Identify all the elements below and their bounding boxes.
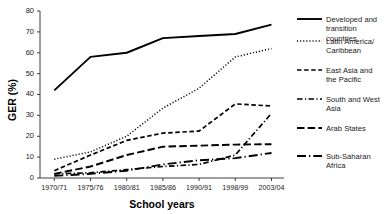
- legend-item-label: South and West: [326, 95, 381, 104]
- legend-item-label: the Pacific: [326, 75, 361, 84]
- chart-figure: GER (%) 80 70 60 50 40 30 20 10 0: [0, 0, 386, 214]
- x-tick-label: 1980/81: [114, 183, 140, 192]
- x-tick-label: 1985/86: [150, 183, 176, 192]
- y-tick-label: 30: [26, 110, 34, 119]
- legend-item-label: Arab States: [326, 124, 366, 133]
- x-axis-title: School years: [129, 198, 195, 210]
- x-tick-label: 1975/76: [78, 183, 104, 192]
- line-chart: GER (%) 80 70 60 50 40 30 20 10 0: [0, 0, 386, 214]
- legend-item-label: Sub-Saharan: [326, 152, 371, 161]
- legend-item-label: Developed and: [326, 15, 377, 24]
- x-tick-label: 1970/71: [41, 183, 67, 192]
- y-axis-tick-labels: 80 70 60 50 40 30 20 10 0: [26, 6, 34, 182]
- x-tick-label: 1990/91: [186, 183, 212, 192]
- y-tick-label: 50: [26, 69, 34, 78]
- y-tick-label: 80: [26, 6, 34, 15]
- legend-item-label: Africa: [326, 161, 346, 170]
- y-tick-label: 0: [30, 173, 34, 182]
- legend-item-label: Asia: [326, 104, 342, 113]
- y-tick-label: 20: [26, 131, 34, 140]
- y-tick-label: 40: [26, 89, 34, 98]
- y-axis-title: GER (%): [6, 79, 18, 121]
- legend-item-label: transition: [326, 24, 357, 33]
- legend-item-label: East Asia and: [326, 66, 372, 75]
- legend-item-label: Latin America/: [326, 37, 375, 46]
- x-tick-label: 1998/99: [222, 183, 248, 192]
- x-tick-label: 2003/04: [259, 183, 285, 192]
- x-axis-tick-labels: 1970/71 1975/76 1980/81 1985/86 1990/91 …: [41, 183, 284, 192]
- legend-item-label: Caribbean: [326, 46, 361, 55]
- y-tick-label: 60: [26, 48, 34, 57]
- y-tick-label: 70: [26, 27, 34, 36]
- y-tick-label: 10: [26, 152, 34, 161]
